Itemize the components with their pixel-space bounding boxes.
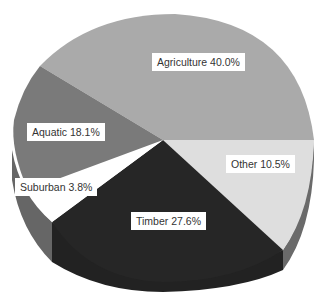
label-suburban: Suburban 3.8% <box>15 178 97 196</box>
label-aquatic: Aquatic 18.1% <box>27 123 105 141</box>
label-agriculture: Agriculture 40.0% <box>152 53 245 71</box>
label-other: Other 10.5% <box>226 155 295 173</box>
label-timber: Timber 27.6% <box>131 212 206 230</box>
pie-chart <box>0 0 324 301</box>
